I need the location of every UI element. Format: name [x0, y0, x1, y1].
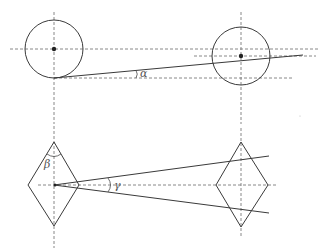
diagram-svg: α β γ: [0, 0, 329, 249]
beta-label: β: [43, 158, 50, 171]
right-diamond: [216, 142, 268, 227]
upper-ray: [54, 156, 269, 185]
alpha-label: α: [140, 67, 148, 80]
lower-ray: [54, 185, 269, 213]
gamma-label: γ: [114, 179, 121, 192]
left-diamond: [28, 142, 79, 226]
ray-origin-dot: [54, 184, 57, 187]
tangent-line: [54, 55, 303, 78]
right-circle-center-dot: [239, 54, 243, 58]
diagram-canvas: α β γ: [0, 0, 329, 249]
left-circle-center-dot: [52, 47, 56, 51]
stray-mark: [299, 115, 300, 116]
alpha-angle-arc: [136, 71, 137, 79]
beta-angle-arc: [47, 154, 61, 157]
